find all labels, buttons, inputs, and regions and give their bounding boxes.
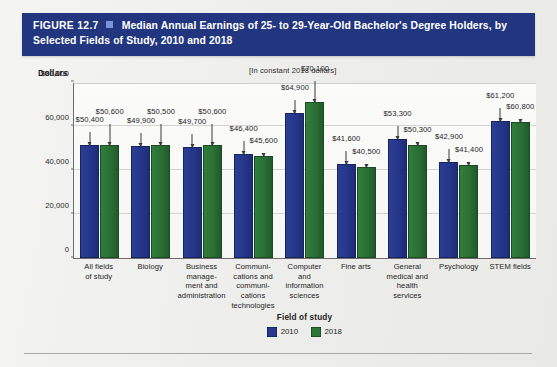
figure-bullet-square (106, 21, 113, 28)
bar-2018: $60,800 (511, 122, 530, 258)
bar-value-label: $41,400 (455, 145, 483, 154)
bar-value-label: $50,500 (147, 107, 175, 116)
leader-line (346, 151, 347, 164)
bar-group: $42,900$41,400 (433, 83, 484, 258)
bar-group: $49,900$50,500 (125, 83, 176, 258)
bar-group: $50,400$50,600 (74, 83, 125, 258)
bar-value-label: $60,800 (506, 102, 534, 111)
legend-swatch (311, 327, 321, 337)
bar-2010: $49,900 (131, 146, 150, 258)
bar-group: $46,400$45,600 (228, 83, 279, 258)
y-axis-tick-label: 60,000 (45, 113, 69, 122)
figure-page: FIGURE 12.7Median Annual Earnings of 25-… (0, 0, 557, 367)
plot-area: 020,00040,00060,000$80,000 $50,400$50,60… (73, 83, 536, 259)
legend-item-2010: 2010 (267, 327, 298, 337)
bar-2010: $50,400 (80, 145, 99, 258)
legend-swatch (267, 327, 277, 337)
figure-header: FIGURE 12.7Median Annual Earnings of 25-… (22, 13, 535, 56)
bar-2018: $40,500 (357, 167, 376, 258)
legend-label: 2018 (325, 327, 342, 336)
chart-container: Dollars [In constant 2018 dollars] 020,0… (22, 66, 535, 351)
legend-label: 2010 (281, 327, 298, 336)
leader-line (192, 134, 193, 147)
bar-value-label: $50,600 (96, 107, 124, 116)
bar-2018: $50,300 (408, 145, 427, 258)
leader-line (500, 108, 501, 121)
bar-groups: $50,400$50,600$49,900$50,500$49,700$50,6… (74, 83, 536, 258)
bar-value-label: $49,700 (178, 117, 206, 126)
bar-value-label: $50,400 (76, 115, 104, 124)
figure-number: FIGURE 12.7 (33, 20, 99, 31)
bar-2010: $46,400 (234, 154, 253, 258)
leader-line (109, 124, 110, 145)
x-axis-categories: All fieldsof studyBiologyBusinessmanage-… (73, 262, 536, 311)
x-axis-category-label: Psychology (433, 262, 484, 311)
x-axis-title: Field of study (73, 313, 536, 322)
bar-2018: $41,400 (459, 165, 478, 258)
leader-line (314, 81, 315, 102)
leader-line (468, 162, 469, 165)
bar-value-label: $50,300 (404, 125, 432, 134)
bar-2018: $70,100 (305, 102, 324, 258)
bar-value-label: $50,600 (198, 107, 226, 116)
bar-2010: $61,200 (491, 121, 510, 258)
leader-line (160, 124, 161, 145)
y-axis-tick-label: 20,000 (45, 201, 69, 210)
x-axis-category-label: Communi-cations andcommuni-cationstechno… (227, 262, 278, 311)
bar-2010: $53,300 (388, 139, 407, 258)
leader-line (397, 126, 398, 139)
leader-line (448, 149, 449, 162)
bar-2010: $49,700 (183, 147, 202, 258)
bar-value-label: $49,900 (127, 116, 155, 125)
bar-group: $64,900$70,100 (279, 83, 330, 258)
bar-group: $61,200$60,800 (485, 83, 536, 258)
bar-2018: $45,600 (254, 156, 273, 258)
leader-line (366, 164, 367, 167)
bar-value-label: $45,600 (250, 136, 278, 145)
bar-value-label: $46,400 (230, 124, 258, 133)
leader-line (140, 133, 141, 146)
x-axis-category-label: Fine arts (330, 262, 381, 311)
bar-value-label: $61,200 (486, 91, 514, 100)
x-axis-category-label: Biology (124, 262, 175, 311)
leader-line (520, 119, 521, 122)
bar-group: $49,700$50,600 (177, 83, 228, 258)
bar-group: $53,300$50,300 (382, 83, 433, 258)
x-axis-category-label: Businessmanage-ment andadministration (176, 262, 227, 311)
x-axis-category-label: Generalmedical andhealth services (382, 262, 433, 311)
bar-value-label: $42,900 (435, 132, 463, 141)
leader-line (417, 142, 418, 145)
x-axis-category-label: Computerandinformationsciences (279, 262, 330, 311)
y-axis-tick-mark (71, 81, 74, 82)
x-axis-category-label: STEM fields (485, 262, 536, 311)
x-axis-category-label: All fieldsof study (73, 262, 124, 311)
bar-value-label: $53,300 (384, 109, 412, 118)
footer-rule (24, 353, 532, 354)
bar-2010: $64,900 (285, 113, 304, 258)
bar-value-label: $41,600 (332, 134, 360, 143)
figure-title: Median Annual Earnings of 25- to 29-Year… (33, 20, 507, 46)
bar-2018: $50,600 (203, 145, 222, 258)
bar-2018: $50,500 (151, 145, 170, 258)
y-axis-tick-label: 0 (65, 245, 69, 254)
bar-value-label: $40,500 (352, 147, 380, 156)
leader-line (243, 141, 244, 154)
bar-2018: $50,600 (100, 145, 119, 258)
bar-value-label: $70,100 (301, 64, 329, 73)
leader-line (89, 132, 90, 145)
chart-legend: 20102018 (73, 327, 536, 337)
leader-line (294, 100, 295, 113)
y-axis-tick-label: 40,000 (45, 157, 69, 166)
leader-line (212, 124, 213, 145)
bar-group: $41,600$40,500 (331, 83, 382, 258)
bar-2010: $41,600 (337, 164, 356, 258)
y-axis-tick-label: $80,000 (41, 69, 69, 78)
bar-2010: $42,900 (439, 162, 458, 258)
legend-item-2018: 2018 (311, 327, 342, 337)
bar-value-label: $64,900 (281, 83, 309, 92)
leader-line (263, 153, 264, 156)
